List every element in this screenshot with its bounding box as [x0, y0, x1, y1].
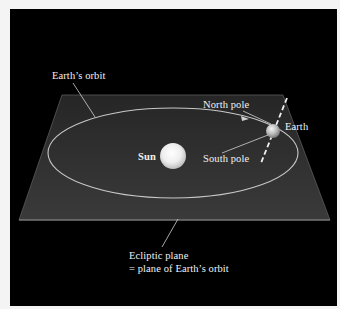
earth-label: Earth — [285, 121, 308, 133]
earths-orbit-label: Earth’s orbit — [52, 70, 106, 82]
ecliptic-plane-label: Ecliptic plane — [129, 250, 188, 262]
north-pole-label: North pole — [203, 99, 249, 111]
ecliptic-plane-leader — [162, 219, 178, 247]
sun-icon — [160, 143, 186, 169]
ecliptic-plane-definition-label: = plane of Earth’s orbit — [129, 263, 229, 275]
earth-icon — [266, 124, 280, 138]
sun-label: Sun — [138, 151, 156, 163]
south-pole-label: South pole — [203, 153, 249, 165]
